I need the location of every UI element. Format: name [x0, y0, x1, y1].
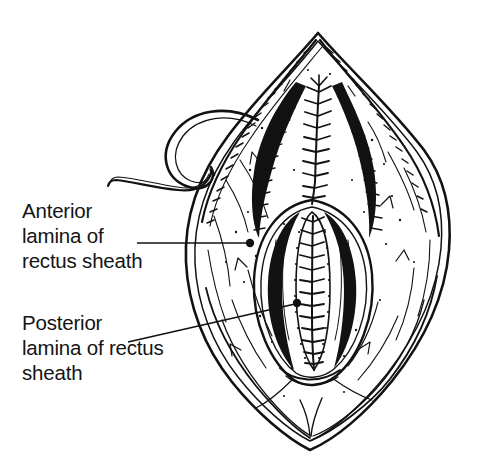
label-anterior-line-3: rectus sheath [22, 249, 142, 272]
leader-dot-posterior [293, 299, 301, 307]
label-posterior-line-3: sheath [22, 361, 82, 384]
label-posterior-line-1: Posterior [22, 311, 103, 334]
anatomy-illustration-svg: Anterior lamina of rectus sheath Posteri… [0, 0, 480, 475]
label-anterior-line-2: lamina of [22, 224, 104, 247]
illustration-figure: Anterior lamina of rectus sheath Posteri… [0, 0, 480, 475]
label-posterior-line-2: lamina of rectus [22, 336, 164, 359]
leader-dot-anterior [246, 239, 254, 247]
label-anterior-line-1: Anterior [22, 199, 93, 222]
